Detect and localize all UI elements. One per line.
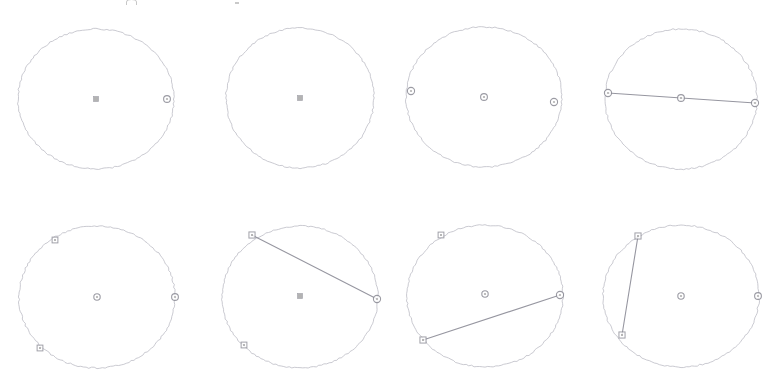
panel-7-point-lower-left-dot [422, 339, 424, 341]
panel-4 [604, 29, 758, 170]
panel-7-point-upper-left-dot [440, 234, 442, 236]
panel-3-center-dot [483, 96, 485, 98]
panel-5 [18, 226, 178, 369]
panel-1 [18, 28, 175, 169]
panel-5-center-dot [96, 296, 98, 298]
panel-8-point-lower-left-dot [621, 334, 623, 336]
panel-6-chord-upper-left-to-right [252, 235, 377, 299]
panel-5-point-right-dot [174, 296, 176, 298]
panel-8-center-dot [680, 295, 682, 297]
panel-6-center-marker [298, 294, 303, 299]
panel-7 [406, 225, 563, 367]
panel-2-center-marker [298, 96, 303, 101]
panel-4-point-right-dot [754, 102, 756, 104]
panel-7-chord-lower-left-to-right [423, 295, 560, 340]
panel-8 [602, 225, 761, 368]
panel-3-point-right-dot [553, 101, 555, 103]
panel-5-point-lower-left-dot [39, 347, 41, 349]
panel-6-point-upper-left-dot [251, 234, 253, 236]
panel-4-center-dot [680, 97, 682, 99]
panel-3-point-left-dot [410, 90, 412, 92]
panel-8-chord-upper-left-to-lower-left [622, 236, 638, 335]
panel-5-point-upper-left-dot [54, 239, 56, 241]
panel-8-point-right-dot [757, 295, 759, 297]
panel-6 [222, 225, 381, 368]
panel-7-center-dot [484, 293, 486, 295]
panel-1-center-marker [94, 97, 99, 102]
panel-3 [406, 27, 563, 168]
circle-construction-figure [0, 0, 770, 380]
panel-1-point-right-dot [166, 98, 168, 100]
cropped-toolbar-tick [235, 2, 239, 4]
panel-6-point-lower-left-dot [243, 344, 245, 346]
cropped-toolbar-glyph [126, 0, 137, 5]
panel-6-point-right-dot [376, 298, 378, 300]
panel-7-point-right-dot [559, 294, 561, 296]
panel-8-point-upper-left-dot [637, 235, 639, 237]
diagram-canvas [0, 0, 770, 380]
panel-2 [225, 28, 374, 169]
panel-4-point-left-dot [607, 92, 609, 94]
